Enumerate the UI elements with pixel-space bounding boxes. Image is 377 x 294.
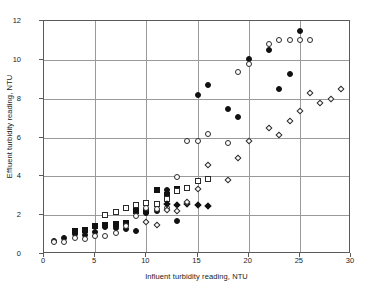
- data-point-open-diamond: [266, 124, 273, 131]
- data-point-open-square: [123, 205, 129, 211]
- y-tick-mark: [39, 253, 43, 254]
- x-tick-mark: [350, 253, 351, 257]
- data-point-open-square: [174, 188, 180, 194]
- data-point-open-diamond: [307, 89, 314, 96]
- data-point-filled-circle: [174, 218, 180, 224]
- data-point-filled-diamond: [204, 203, 211, 210]
- data-point-open-circle: [113, 230, 119, 236]
- x-tick-mark: [145, 253, 146, 257]
- x-tick-mark: [248, 253, 249, 257]
- data-point-open-diamond: [317, 99, 324, 106]
- y-tick-label: 4: [1, 171, 21, 180]
- data-point-open-circle: [205, 131, 211, 137]
- data-point-filled-circle: [235, 114, 241, 120]
- data-point-filled-square: [154, 187, 160, 193]
- x-tick-label: 20: [243, 256, 251, 265]
- data-point-open-circle: [307, 37, 313, 43]
- x-axis-label: Influent turbidity reading, NTU: [43, 272, 350, 281]
- data-point-filled-circle: [133, 228, 139, 234]
- data-point-open-circle: [82, 236, 88, 242]
- data-point-filled-circle: [225, 106, 231, 112]
- data-point-filled-circle: [276, 86, 282, 92]
- data-point-open-diamond: [153, 221, 160, 228]
- data-point-open-circle: [61, 239, 67, 245]
- y-tick-mark: [39, 137, 43, 138]
- data-point-open-diamond: [194, 185, 201, 192]
- scatter-chart: Effluent turbidity reading, NTU 05101520…: [0, 0, 377, 294]
- data-point-open-circle: [72, 235, 78, 241]
- x-tick-mark: [197, 253, 198, 257]
- data-point-open-circle: [174, 174, 180, 180]
- x-tick-label: 30: [346, 256, 354, 265]
- data-point-open-circle: [184, 138, 190, 144]
- data-point-open-diamond: [327, 95, 334, 102]
- data-point-open-circle: [143, 205, 149, 211]
- data-point-open-circle: [266, 41, 272, 47]
- data-point-open-diamond: [337, 85, 344, 92]
- data-point-filled-circle: [205, 82, 211, 88]
- data-point-filled-circle: [287, 71, 293, 77]
- y-tick-mark: [39, 98, 43, 99]
- y-tick-label: 6: [1, 132, 21, 141]
- data-point-open-circle: [92, 233, 98, 239]
- y-tick-label: 8: [1, 93, 21, 102]
- x-tick-label: 0: [41, 256, 45, 265]
- data-point-open-square: [195, 178, 201, 184]
- data-point-open-circle: [287, 37, 293, 43]
- y-tick-mark: [39, 59, 43, 60]
- x-tick-label: 10: [141, 256, 149, 265]
- data-point-filled-circle: [297, 28, 303, 34]
- data-point-filled-diamond: [194, 202, 201, 209]
- data-point-filled-circle: [195, 92, 201, 98]
- data-point-open-diamond: [296, 108, 303, 115]
- x-tick-mark: [94, 253, 95, 257]
- data-point-open-diamond: [276, 131, 283, 138]
- x-tick-label: 5: [92, 256, 96, 265]
- data-point-open-circle: [297, 37, 303, 43]
- y-tick-label: 0: [1, 249, 21, 258]
- data-point-open-circle: [133, 213, 139, 219]
- data-point-open-diamond: [286, 117, 293, 124]
- data-point-open-diamond: [245, 138, 252, 145]
- data-point-filled-circle: [102, 224, 108, 230]
- data-point-open-circle: [225, 140, 231, 146]
- data-point-open-square: [205, 176, 211, 182]
- data-point-open-square: [102, 212, 108, 218]
- y-tick-mark: [39, 175, 43, 176]
- data-point-open-diamond: [173, 208, 180, 215]
- data-point-open-circle: [195, 138, 201, 144]
- x-tick-mark: [43, 253, 44, 257]
- y-tick-mark: [39, 214, 43, 215]
- data-point-open-circle: [102, 233, 108, 239]
- data-point-open-diamond: [235, 154, 242, 161]
- x-tick-label: 15: [192, 256, 200, 265]
- data-point-open-circle: [246, 61, 252, 67]
- y-tick-label: 2: [1, 210, 21, 219]
- data-point-open-circle: [51, 239, 57, 245]
- data-point-filled-circle: [266, 47, 272, 53]
- data-point-open-diamond: [204, 161, 211, 168]
- data-point-open-diamond: [163, 207, 170, 214]
- data-point-open-square: [133, 202, 139, 208]
- data-points-layer: [44, 21, 349, 252]
- y-tick-label: 10: [1, 54, 21, 63]
- data-point-open-diamond: [225, 177, 232, 184]
- data-point-open-square: [113, 209, 119, 215]
- x-tick-label: 25: [295, 256, 303, 265]
- x-tick-mark: [299, 253, 300, 257]
- data-point-filled-circle: [164, 187, 170, 193]
- y-tick-label: 12: [1, 16, 21, 25]
- y-tick-mark: [39, 20, 43, 21]
- data-point-open-circle: [123, 223, 129, 229]
- data-point-open-square: [184, 185, 190, 191]
- data-point-open-circle: [276, 37, 282, 43]
- data-point-open-diamond: [143, 218, 150, 225]
- data-point-open-circle: [154, 206, 160, 212]
- data-point-open-circle: [235, 69, 241, 75]
- plot-area: [43, 20, 350, 253]
